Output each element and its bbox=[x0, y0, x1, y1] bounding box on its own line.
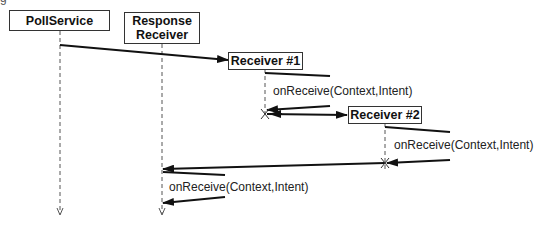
participant-label: Receiver #1 bbox=[231, 54, 301, 68]
msg-poll-to-r1 bbox=[60, 45, 228, 60]
participant-poll-service: PollService bbox=[9, 10, 110, 31]
sequence-diagram-lines bbox=[0, 0, 537, 234]
participant-label-line1: Response bbox=[132, 14, 192, 28]
msg-r2-to-response bbox=[163, 163, 385, 169]
participant-receiver-1: Receiver #1 bbox=[228, 52, 303, 70]
message-label: onReceive(Context,Intent) bbox=[169, 180, 308, 194]
participant-response-receiver: Response Receiver bbox=[124, 12, 200, 44]
message-label: onReceive(Context,Intent) bbox=[394, 138, 533, 152]
participant-label: Receiver #2 bbox=[350, 108, 420, 122]
participant-label-line2: Receiver bbox=[136, 28, 188, 42]
participant-label: PollService bbox=[26, 14, 93, 28]
participant-receiver-2: Receiver #2 bbox=[348, 106, 422, 124]
message-label: onReceive(Context,Intent) bbox=[273, 84, 412, 98]
